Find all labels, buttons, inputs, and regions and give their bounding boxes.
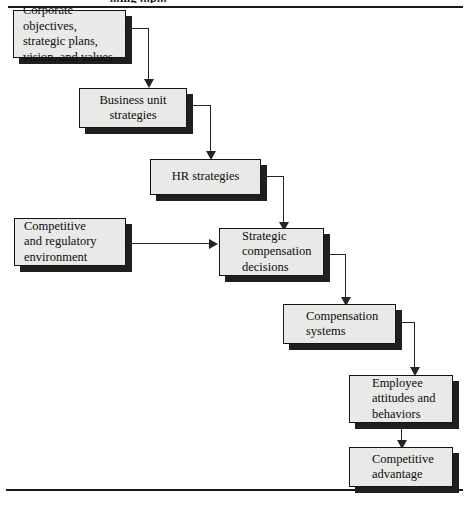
- edge-5-vertical: [345, 254, 346, 298]
- node-face: Competitive advantage: [349, 447, 453, 487]
- node-face: HR strategies: [150, 159, 261, 195]
- node-label: Compensation systems: [284, 309, 395, 340]
- edge-1-vertical: [148, 28, 149, 80]
- node-label: Competitive and regulatory environment: [15, 219, 125, 266]
- node-competitive-advantage[interactable]: Competitive advantage: [349, 447, 453, 487]
- node-business-unit-strategies[interactable]: Business unit strategies: [79, 88, 187, 128]
- node-label: Business unit strategies: [80, 93, 186, 124]
- node-face: Competitive and regulatory environment: [14, 218, 126, 266]
- node-face: Compensation systems: [283, 304, 396, 344]
- node-face: Strategic compensation decisions: [219, 228, 324, 276]
- node-hr-strategies[interactable]: HR strategies: [150, 159, 261, 195]
- node-compensation-systems[interactable]: Compensation systems: [283, 304, 396, 344]
- node-employee-attitudes-behaviors[interactable]: Employee attitudes and behaviors: [349, 375, 453, 423]
- node-corporate-objectives[interactable]: Corporate objectives, strategic plans, v…: [13, 10, 126, 58]
- node-label: HR strategies: [151, 169, 260, 185]
- edge-4-arrowhead-icon: [209, 239, 218, 249]
- node-label: Competitive advantage: [350, 452, 452, 483]
- edge-4-horizontal: [126, 243, 210, 244]
- edge-6-vertical: [414, 322, 415, 368]
- edge-3-vertical: [283, 176, 284, 223]
- node-face: Corporate objectives, strategic plans, v…: [13, 10, 126, 58]
- edge-6-horizontal: [396, 322, 415, 323]
- edge-2-horizontal: [187, 105, 211, 106]
- edge-1-arrowhead-icon: [144, 79, 154, 88]
- node-face: Employee attitudes and behaviors: [349, 375, 453, 423]
- node-strategic-compensation-decisions[interactable]: Strategic compensation decisions: [219, 228, 324, 276]
- edge-2-vertical: [210, 105, 211, 152]
- diagram-canvas: ...ing ...p... Corporate objectives, str…: [0, 0, 471, 507]
- node-face: Business unit strategies: [79, 88, 187, 128]
- edge-7-vertical: [401, 423, 402, 441]
- node-label: Employee attitudes and behaviors: [350, 376, 452, 423]
- edge-1-horizontal: [126, 28, 149, 29]
- node-competitive-regulatory-environment[interactable]: Competitive and regulatory environment: [14, 218, 126, 266]
- edge-3-horizontal: [261, 176, 284, 177]
- node-label: Corporate objectives, strategic plans, v…: [14, 3, 125, 65]
- node-label: Strategic compensation decisions: [220, 229, 323, 276]
- edge-5-horizontal: [324, 254, 346, 255]
- figure-title-sliver: ...ing ...p...: [110, 0, 350, 3]
